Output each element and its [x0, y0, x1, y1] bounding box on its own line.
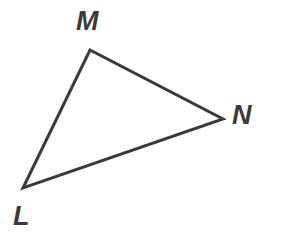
triangle-outline: [23, 50, 223, 188]
vertex-label-m: M: [76, 8, 99, 35]
triangle-diagram: M N L: [0, 0, 284, 243]
vertex-label-n: N: [232, 102, 252, 129]
vertex-label-l: L: [13, 203, 30, 230]
